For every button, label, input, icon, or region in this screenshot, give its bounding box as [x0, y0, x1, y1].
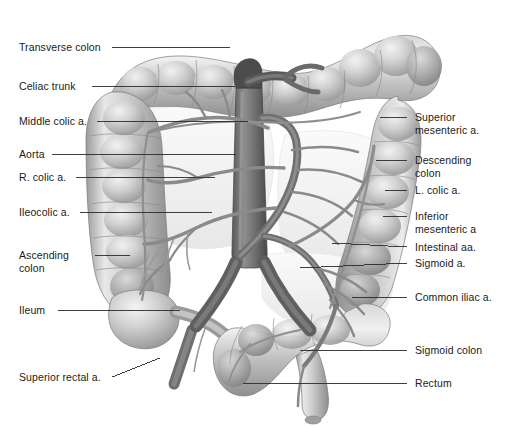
anatomy-figure: Transverse colonCeliac trunkMiddle colic… — [0, 0, 509, 429]
label-superior-mesenteric-a: Superior mesenteric a. — [415, 111, 479, 136]
label-celiac-trunk: Celiac trunk — [19, 80, 76, 93]
ascending-colon-segment — [86, 92, 170, 318]
label-r-colic-a: R. colic a. — [19, 171, 66, 184]
label-l-colic-a: L. colic a. — [415, 184, 460, 197]
label-inferior-mesenteric-a: Inferior mesenteric a — [415, 210, 476, 235]
label-aorta: Aorta — [19, 148, 45, 161]
label-intestinal-aa: Intestinal aa. — [415, 241, 476, 254]
label-ascending-colon: Ascending colon — [19, 249, 69, 274]
label-sigmoid-colon: Sigmoid colon — [415, 344, 482, 357]
label-superior-rectal-a: Superior rectal a. — [19, 371, 101, 384]
label-common-iliac-a: Common iliac a. — [415, 291, 492, 304]
label-ileum: Ileum — [19, 304, 45, 317]
label-sigmoid-a: Sigmoid a. — [415, 257, 466, 270]
label-ileocolic-a: Ileocolic a. — [19, 206, 70, 219]
label-rectum: Rectum — [415, 377, 452, 390]
label-descending-colon: Descending colon — [415, 154, 471, 179]
label-middle-colic-a: Middle colic a. — [19, 115, 87, 128]
label-transverse-colon: Transverse colon — [19, 41, 101, 54]
